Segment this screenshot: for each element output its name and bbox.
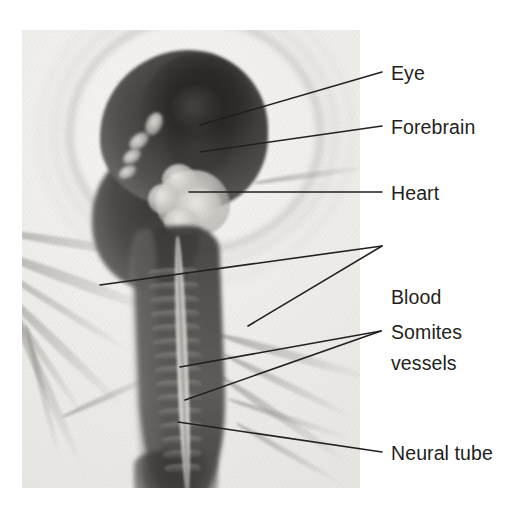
label-heart: Heart <box>391 182 439 204</box>
embryo-micrograph <box>22 30 360 488</box>
label-eye-text: Eye <box>391 62 425 84</box>
label-somites-text: Somites <box>391 321 462 343</box>
label-somites: Somites <box>391 321 462 343</box>
film-grain <box>22 30 360 488</box>
label-forebrain: Forebrain <box>391 116 475 138</box>
label-neural-tube: Neural tube <box>391 442 493 464</box>
label-forebrain-text: Forebrain <box>391 116 475 138</box>
label-heart-text: Heart <box>391 182 439 204</box>
embryo-figure: Eye Forebrain Heart Blood vessels Somite… <box>0 0 513 510</box>
label-blood-vessels-line2: vessels <box>391 352 457 374</box>
label-neural-tube-text: Neural tube <box>391 442 493 464</box>
label-eye: Eye <box>391 62 425 84</box>
label-blood-vessels-line1: Blood <box>391 286 457 308</box>
